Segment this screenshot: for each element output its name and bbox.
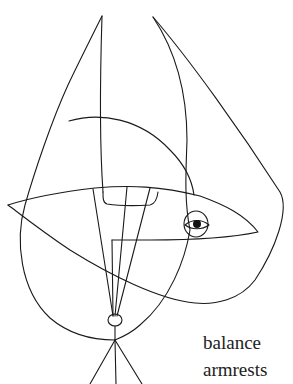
left-spire-center — [101, 16, 103, 192]
caption-line-2: armrests — [203, 360, 267, 379]
tripod-right-leg — [115, 340, 142, 384]
converging-line-2 — [115, 187, 127, 316]
upper-arc — [69, 117, 194, 195]
brim-box — [103, 192, 158, 206]
right-spire-inner — [115, 17, 190, 340]
illustration-canvas: balance armrests — [0, 0, 293, 384]
tripod-left-leg — [90, 340, 115, 384]
converging-line-4 — [112, 240, 113, 316]
right-spire-outer — [8, 17, 283, 303]
line-drawing — [0, 0, 293, 384]
caption-line-1: balance — [203, 333, 261, 352]
eye-pupil — [193, 220, 201, 228]
tripod-center-leg — [115, 340, 116, 384]
brim-line — [8, 187, 258, 240]
converging-line-3 — [117, 188, 150, 316]
converging-line-1 — [93, 189, 113, 316]
